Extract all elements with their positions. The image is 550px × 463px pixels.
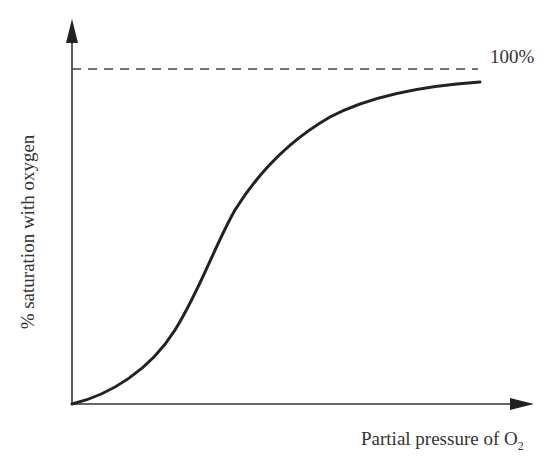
oxygen-dissociation-diagram	[0, 0, 550, 463]
y-axis-arrow-icon	[66, 19, 78, 43]
x-axis-label-subscript: 2	[518, 439, 524, 453]
hundred-percent-label: 100%	[490, 46, 534, 68]
x-axis-label: Partial pressure of O2	[361, 428, 524, 454]
y-axis-label: % saturation with oxygen	[17, 135, 39, 330]
dissociation-curve	[72, 82, 480, 404]
x-axis-arrow-icon	[510, 398, 534, 410]
x-axis-label-main: Partial pressure of O	[361, 428, 518, 449]
